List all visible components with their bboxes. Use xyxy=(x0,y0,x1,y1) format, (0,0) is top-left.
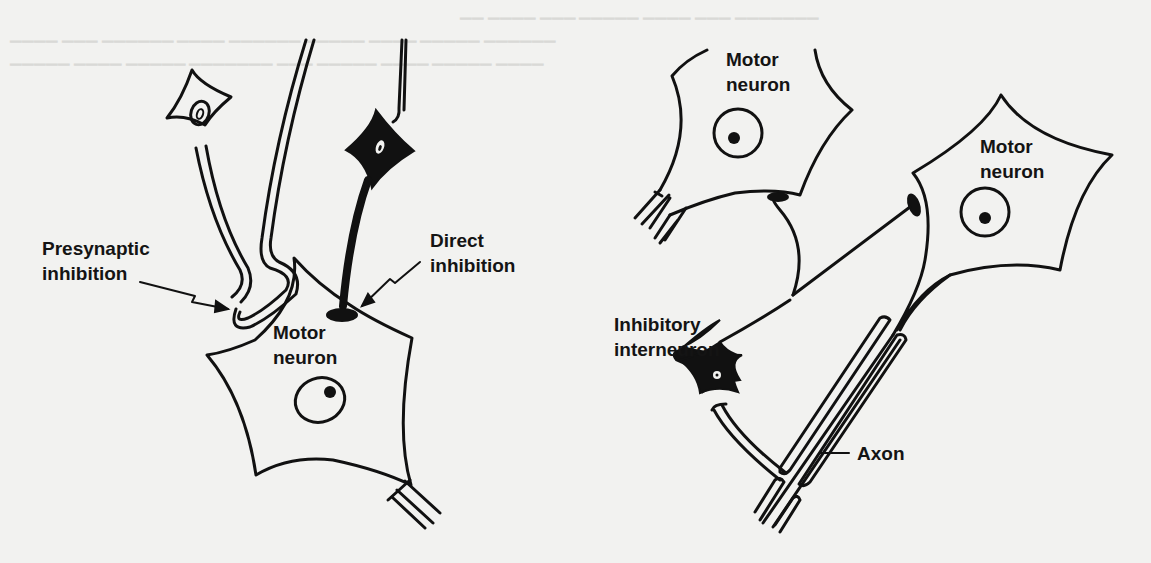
label-line: inhibition xyxy=(42,261,150,286)
label-axon: Axon xyxy=(857,441,905,466)
label-motor-neuron-top: Motor neuron xyxy=(726,47,790,97)
label-line: Motor xyxy=(980,134,1044,159)
label-line: Axon xyxy=(857,441,905,466)
presynaptic-source-neuron xyxy=(167,70,251,302)
label-line: interneuron xyxy=(614,337,720,362)
left-panel xyxy=(140,40,440,528)
label-line: Motor xyxy=(273,320,337,345)
recurrent-collateral xyxy=(767,192,799,295)
label-line: neuron xyxy=(726,72,790,97)
main-axon xyxy=(755,275,950,532)
excitatory-afferent-fiber xyxy=(234,40,314,328)
neuron-diagram xyxy=(0,0,1151,563)
label-line: Inhibitory xyxy=(614,312,720,337)
label-line: neuron xyxy=(980,159,1044,184)
collateral-to-right-motor xyxy=(793,207,910,295)
label-line: inhibition xyxy=(430,253,515,278)
label-direct-inhibition: Direct inhibition xyxy=(430,228,515,278)
label-line: neuron xyxy=(273,345,337,370)
label-line: Motor xyxy=(726,47,790,72)
figure-canvas: ▁▁ ▁▁▁▁ ▁▁▁ ▁▁▁▁▁ ▁▁▁▁ ▁▁▁ ▁▁▁▁▁▁▁ ▁▁▁▁ … xyxy=(0,0,1151,563)
motor-neuron-left xyxy=(207,258,440,528)
label-line: Presynaptic xyxy=(42,236,150,261)
direct-inhibitory-neuron xyxy=(326,40,414,322)
label-motor-neuron-left: Motor neuron xyxy=(273,320,337,370)
label-presynaptic-inhibition: Presynaptic inhibition xyxy=(42,236,150,286)
direct-inhibition-arrow xyxy=(362,262,420,306)
label-motor-neuron-right: Motor neuron xyxy=(980,134,1044,184)
presynaptic-arrow xyxy=(140,282,228,312)
label-line: Direct xyxy=(430,228,515,253)
label-inhibitory-interneuron: Inhibitory interneuron xyxy=(614,312,720,362)
motor-neuron-right xyxy=(893,95,1112,335)
